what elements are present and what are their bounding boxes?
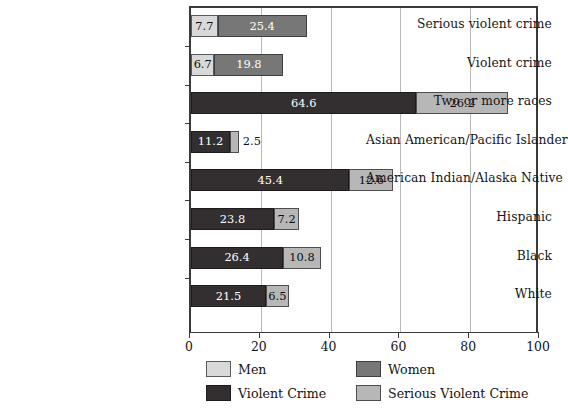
legend-swatch-violent-crime bbox=[206, 385, 231, 401]
x-axis-line bbox=[189, 332, 538, 333]
x-axis-tick-label-100: 100 bbox=[518, 340, 558, 353]
x-axis-tick-0 bbox=[189, 332, 190, 338]
bar-segment-serious-violent-crime[interactable]: 10.8 bbox=[283, 247, 321, 269]
category-label-asian-american-pacific-islander: Asian American/Pacific Islander bbox=[366, 134, 552, 146]
category-label-american-indian-alaska-native: American Indian/Alaska Native bbox=[366, 172, 552, 184]
y-axis-tick bbox=[185, 123, 191, 124]
bar-value-label: 45.4 bbox=[258, 175, 283, 186]
bar-value-label: 21.5 bbox=[216, 291, 241, 302]
bar-segment-violent-crime[interactable]: 23.8 bbox=[191, 208, 274, 230]
x-axis-tick-80 bbox=[468, 332, 469, 338]
bar-value-label: 10.8 bbox=[289, 252, 314, 263]
bar-value-label: 6.5 bbox=[268, 291, 286, 302]
bar-value-label: 26.4 bbox=[224, 252, 249, 263]
legend-swatch-men bbox=[206, 361, 231, 377]
legend-label: Women bbox=[388, 363, 435, 376]
bar-segment-men[interactable]: 6.7 bbox=[191, 54, 214, 76]
category-label-black: Black bbox=[366, 250, 552, 262]
bar-value-label: 19.8 bbox=[236, 59, 261, 70]
y-axis-tick bbox=[185, 85, 191, 86]
bar-segment-men[interactable]: 7.7 bbox=[191, 15, 218, 37]
x-axis-tick-20 bbox=[259, 332, 260, 338]
category-label-white: White bbox=[366, 288, 552, 300]
bar-segment-violent-crime[interactable]: 26.4 bbox=[191, 247, 283, 269]
bar-segment-violent-crime[interactable]: 21.5 bbox=[191, 285, 266, 307]
plot-area: 7.725.46.719.864.626.211.22.545.412.623.… bbox=[189, 6, 538, 332]
y-axis-tick bbox=[185, 46, 191, 47]
legend-item-violent-crime[interactable]: Violent Crime bbox=[206, 385, 356, 401]
x-axis-tick-label-40: 40 bbox=[309, 340, 349, 353]
y-axis-tick bbox=[185, 162, 191, 163]
bar-value-label: 2.5 bbox=[243, 136, 261, 147]
y-axis-tick bbox=[185, 200, 191, 201]
x-axis-tick-40 bbox=[329, 332, 330, 338]
legend-item-women[interactable]: Women bbox=[356, 361, 526, 377]
x-axis-tick-label-80: 80 bbox=[448, 340, 488, 353]
x-axis-tick-label-20: 20 bbox=[239, 340, 279, 353]
legend-label: Violent Crime bbox=[238, 387, 326, 400]
bar-value-label: 23.8 bbox=[220, 214, 245, 225]
bar-value-label: 7.7 bbox=[195, 21, 213, 32]
legend-label: Men bbox=[238, 363, 266, 376]
bar-value-label: 7.2 bbox=[278, 214, 296, 225]
x-axis-tick-60 bbox=[398, 332, 399, 338]
category-label-serious-violent-crime: Serious violent crime bbox=[366, 18, 552, 30]
legend-item-serious-violent-crime[interactable]: Serious Violent Crime bbox=[356, 385, 526, 401]
bar-value-label: 11.2 bbox=[198, 136, 223, 147]
bar-segment-serious-violent-crime[interactable]: 7.2 bbox=[274, 208, 299, 230]
legend-swatch-women bbox=[356, 361, 381, 377]
bar-segment-women[interactable]: 19.8 bbox=[214, 54, 283, 76]
bar-value-label: 6.7 bbox=[194, 59, 212, 70]
bar-segment-violent-crime[interactable]: 11.2 bbox=[191, 131, 230, 153]
bar-segment-serious-violent-crime[interactable]: 2.5 bbox=[230, 131, 239, 153]
bar-value-label: 25.4 bbox=[249, 21, 274, 32]
legend-swatch-serious-violent-crime bbox=[356, 385, 381, 401]
x-axis-tick-100 bbox=[538, 332, 539, 338]
category-label-two-or-more-races: Two or more races bbox=[366, 95, 552, 107]
x-axis-tick-label-0: 0 bbox=[169, 340, 209, 353]
y-axis-tick bbox=[185, 239, 191, 240]
y-axis-tick bbox=[185, 278, 191, 279]
chart-legend: MenWomenViolent CrimeSerious Violent Cri… bbox=[206, 357, 526, 405]
bar-segment-violent-crime[interactable]: 45.4 bbox=[191, 169, 349, 191]
legend-label: Serious Violent Crime bbox=[388, 387, 529, 400]
bar-segment-women[interactable]: 25.4 bbox=[218, 15, 307, 37]
category-label-violent-crime: Violent crime bbox=[366, 57, 552, 69]
x-axis-tick-label-60: 60 bbox=[378, 340, 418, 353]
bar-value-label: 64.6 bbox=[291, 98, 316, 109]
legend-item-men[interactable]: Men bbox=[206, 361, 356, 377]
bar-segment-serious-violent-crime[interactable]: 6.5 bbox=[266, 285, 289, 307]
category-label-hispanic: Hispanic bbox=[366, 211, 552, 223]
